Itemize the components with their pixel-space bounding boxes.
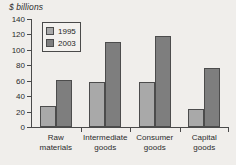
legend-item-2003: 2003: [46, 37, 76, 49]
y-tick-label: 80: [16, 61, 25, 70]
legend-item-1995: 1995: [46, 25, 76, 37]
bar-2003: [56, 80, 72, 127]
y-tick-label: 20: [16, 107, 25, 116]
y-tick: [27, 127, 31, 128]
y-tick-label: 140: [12, 15, 25, 24]
y-tick-label: 0: [21, 123, 25, 132]
bar-1995: [40, 106, 56, 127]
category-label: Rawmaterials: [31, 133, 81, 153]
category-label-line: goods: [130, 143, 180, 153]
x-separator-tick: [81, 127, 82, 132]
bar-group: [130, 19, 180, 127]
category-label-line: Consumer: [130, 133, 180, 143]
category-label-line: Capital: [180, 133, 230, 143]
legend-label-2003: 2003: [58, 39, 76, 48]
category-label-line: goods: [180, 143, 230, 153]
category-label: Capitalgoods: [180, 133, 230, 153]
y-tick-label: 120: [12, 30, 25, 39]
category-label-line: Intermediate: [81, 133, 131, 143]
category-label-line: goods: [81, 143, 131, 153]
x-separator-tick: [130, 127, 131, 132]
bar-1995: [188, 109, 204, 127]
bar-group: [180, 19, 230, 127]
category-label-line: materials: [31, 143, 81, 153]
bar-group: [81, 19, 131, 127]
legend-label-1995: 1995: [58, 27, 76, 36]
bar-1995: [139, 82, 155, 127]
category-label: Consumergoods: [130, 133, 180, 153]
category-label: Intermediategoods: [81, 133, 131, 153]
bar-chart: $ billions 020406080100120140 Rawmateria…: [0, 0, 236, 165]
y-tick-label: 100: [12, 45, 25, 54]
y-tick-label: 60: [16, 76, 25, 85]
x-separator-tick: [228, 127, 229, 132]
legend-swatch-icon-1995: [46, 27, 54, 35]
bar-2003: [155, 36, 171, 127]
chart-unit-title: $ billions: [9, 2, 43, 12]
legend-swatch-icon-2003: [46, 39, 54, 47]
bar-2003: [105, 42, 121, 127]
bar-2003: [204, 68, 220, 127]
y-tick-label: 40: [16, 92, 25, 101]
x-separator-tick: [180, 127, 181, 132]
chart-legend: 1995 2003: [42, 22, 81, 52]
category-label-line: Raw: [31, 133, 81, 143]
bar-1995: [89, 82, 105, 127]
